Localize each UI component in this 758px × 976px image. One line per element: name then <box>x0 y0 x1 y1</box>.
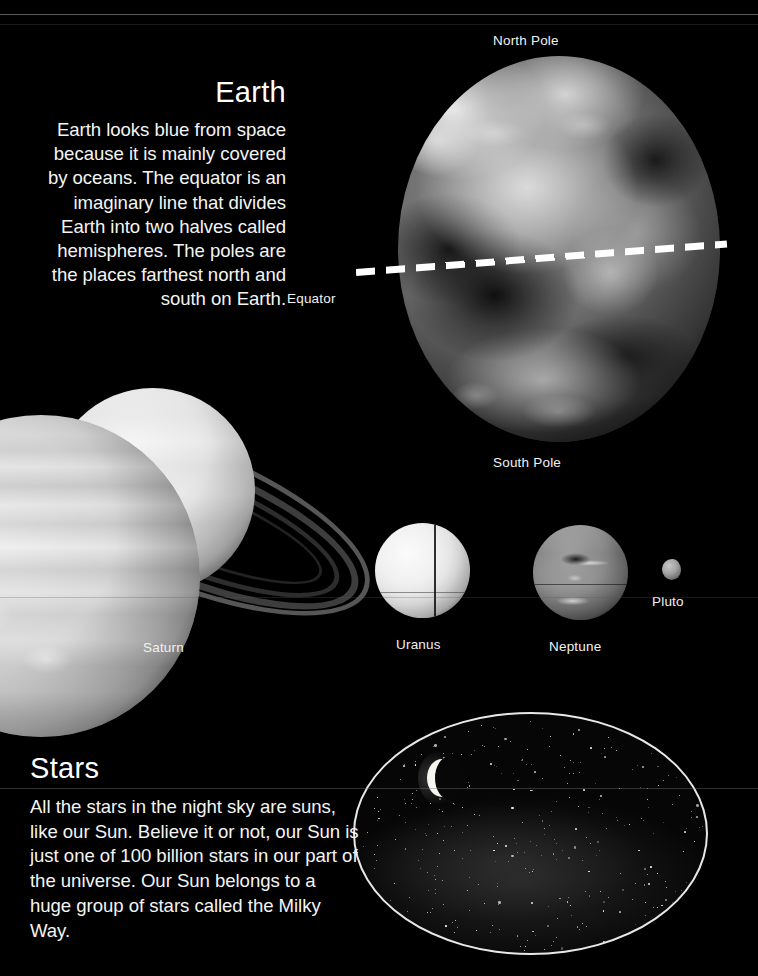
star-dot <box>367 832 368 833</box>
star-dot <box>542 778 543 779</box>
star-dot <box>638 850 640 852</box>
star-dot <box>584 790 585 791</box>
star-dot <box>539 815 540 816</box>
star-dot <box>469 910 470 911</box>
star-dot <box>467 890 468 891</box>
star-dot <box>595 783 596 784</box>
star-dot <box>553 941 554 942</box>
star-dot <box>567 783 568 784</box>
star-dot <box>665 899 667 901</box>
star-dot <box>467 787 468 788</box>
star-dot <box>409 897 410 898</box>
star-dot <box>562 850 563 851</box>
star-dot <box>556 859 557 860</box>
star-dot <box>551 811 552 812</box>
star-dot <box>498 901 500 903</box>
star-dot <box>599 850 600 851</box>
star-dot <box>377 797 378 798</box>
star-dot <box>590 843 591 844</box>
star-dot <box>474 814 476 816</box>
star-dot <box>686 882 687 883</box>
star-dot <box>668 775 669 776</box>
star-dot <box>672 902 673 903</box>
label-saturn: Saturn <box>143 640 184 655</box>
star-dot <box>435 889 436 890</box>
star-dot <box>666 887 667 888</box>
star-dot <box>527 749 528 750</box>
star-dot <box>534 771 536 773</box>
star-dot <box>498 904 499 905</box>
star-dot <box>531 764 532 765</box>
star-dot <box>644 884 646 886</box>
star-dot <box>684 831 686 833</box>
star-dot <box>560 755 562 757</box>
star-dot <box>454 932 455 933</box>
star-dot <box>604 756 606 758</box>
moon-shadow-cut <box>435 756 465 800</box>
star-dot <box>484 746 485 747</box>
star-dot <box>569 797 570 798</box>
star-dot <box>533 869 534 870</box>
star-dot <box>586 926 587 927</box>
star-dot <box>403 765 405 767</box>
star-dot <box>462 832 463 833</box>
star-dot <box>573 733 575 735</box>
star-dot <box>645 915 646 916</box>
star-dot <box>635 883 636 884</box>
star-dot <box>404 799 405 800</box>
star-dot <box>637 765 638 766</box>
star-dot <box>561 947 563 949</box>
star-dot <box>434 744 436 746</box>
star-dot <box>549 825 550 826</box>
star-dot <box>505 845 507 847</box>
star-dot <box>501 773 502 774</box>
star-dot <box>599 799 600 800</box>
star-dot <box>517 935 519 937</box>
star-dot <box>617 820 618 821</box>
star-dot <box>493 850 495 852</box>
star-dot <box>434 875 435 876</box>
star-dot <box>407 911 408 912</box>
star-dot <box>661 905 663 907</box>
star-dot <box>428 824 429 825</box>
star-dot <box>679 795 680 796</box>
star-dot <box>514 838 515 839</box>
star-dot <box>542 728 543 729</box>
star-dot <box>653 833 654 834</box>
star-dot <box>532 790 533 791</box>
star-dot <box>600 795 602 797</box>
star-dot <box>442 811 443 812</box>
label-pluto: Pluto <box>652 594 684 609</box>
star-dot <box>457 927 458 928</box>
star-dot <box>411 803 412 804</box>
star-dot <box>524 852 525 853</box>
star-dot <box>395 839 396 840</box>
star-dot <box>418 860 419 861</box>
star-dot <box>579 772 580 773</box>
star-dot <box>527 940 528 941</box>
star-dot <box>635 924 636 925</box>
star-dot <box>557 918 558 919</box>
milky-way-illustration <box>353 712 708 955</box>
star-dot <box>622 889 624 891</box>
stars-text-section: Stars All the stars in the night sky are… <box>30 754 360 943</box>
star-dot <box>676 777 677 778</box>
star-dot <box>416 807 417 808</box>
star-dot <box>497 886 498 887</box>
star-dot <box>437 833 438 834</box>
star-dot <box>544 949 545 950</box>
earth-text-section: Earth Earth looks blue from space becaus… <box>38 78 286 311</box>
star-dot <box>499 929 500 930</box>
star-dot <box>374 868 375 869</box>
star-dot <box>451 826 452 827</box>
star-dot <box>493 836 494 837</box>
star-dot <box>657 766 659 768</box>
starfield <box>355 714 706 953</box>
star-dot <box>647 874 648 875</box>
star-dot <box>683 851 684 852</box>
star-dot <box>602 813 603 814</box>
star-dot <box>508 861 509 862</box>
star-dot <box>578 729 580 731</box>
uranus-shading-overlay <box>375 523 470 618</box>
top-divider-line-secondary <box>0 24 758 25</box>
